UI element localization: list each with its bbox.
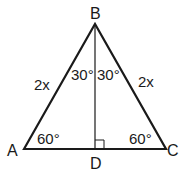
angle-label-abd: 30°: [71, 66, 94, 83]
vertex-label-d: D: [90, 155, 102, 172]
right-angle-marker: [95, 140, 104, 149]
angle-label-c: 60°: [129, 130, 152, 147]
triangle-diagram: B A C D 2x 2x 30° 30° 60° 60°: [0, 0, 187, 173]
vertex-label-c: C: [167, 142, 179, 159]
side-label-bc: 2x: [138, 73, 154, 90]
side-label-ab: 2x: [34, 76, 50, 93]
angle-label-a: 60°: [37, 130, 60, 147]
vertex-label-b: B: [90, 5, 101, 22]
angle-label-dbc: 30°: [97, 66, 120, 83]
vertex-label-a: A: [7, 142, 18, 159]
